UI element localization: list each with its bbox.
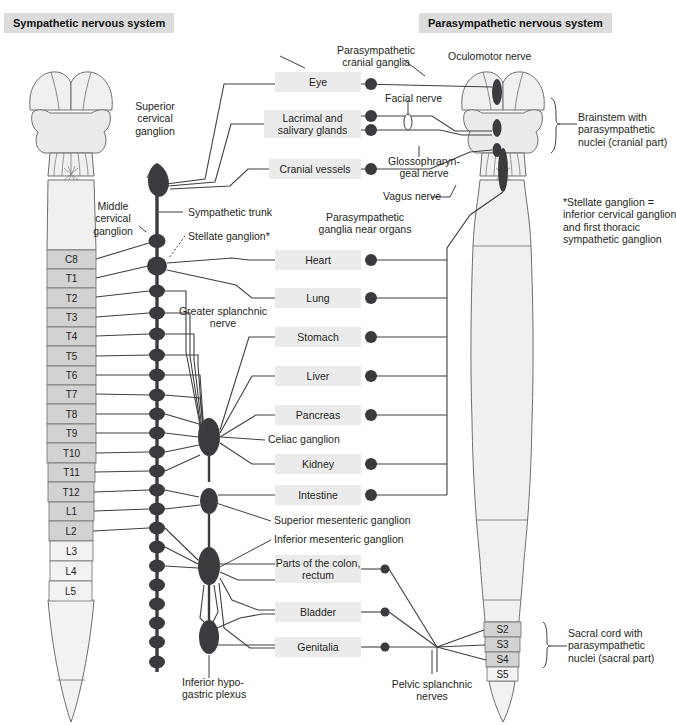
label-celiac-ganglion: Celiac ganglion — [268, 433, 340, 445]
inferior-hypogastric-plexus-shape — [199, 620, 219, 654]
label-sympathetic-trunk: Sympathetic trunk — [188, 206, 272, 218]
organ-box-genitalia: Genitalia — [275, 637, 361, 657]
cord-segment-T1: T1 — [47, 269, 96, 288]
sacral-segment-S4: S4 — [486, 652, 519, 667]
organ-box-eye: Eye — [275, 72, 361, 92]
cord-segment-L5: L5 — [49, 581, 92, 601]
organ-box-lacrimal: Lacrimal and salivary glands — [264, 110, 361, 138]
organ-box-intestine: Intestine — [275, 485, 361, 505]
label-pelvic-splanchnic-nerves: Pelvic splanchnic nerves — [376, 678, 488, 703]
cord-segment-T12: T12 — [48, 482, 94, 502]
cord-segment-T7: T7 — [47, 385, 96, 404]
organ-box-cranial-vessels: Cranial vessels — [269, 159, 361, 179]
label-vagus-nerve: Vagus nerve — [383, 190, 441, 202]
label-parasympathetic-cranial-ganglia: Parasympathetic cranial ganglia — [326, 44, 426, 69]
stellate-ganglion-footnote: *Stellate ganglion = inferior cervical g… — [563, 196, 676, 246]
cord-segment-T10: T10 — [47, 443, 96, 463]
organ-box-kidney: Kidney — [275, 454, 361, 474]
cord-segment-L1: L1 — [49, 502, 94, 521]
cord-segment-T6: T6 — [47, 366, 96, 385]
label-middle-cervical-ganglion: Middle cervical ganglion — [85, 200, 141, 237]
organ-box-stomach: Stomach — [275, 327, 361, 347]
label-sacral-cord-parasympathetic-nuclei: Sacral cord with parasympathetic nuclei … — [568, 627, 654, 664]
pelvic-splanchnic-nerve-paths — [361, 569, 486, 672]
cord-segment-T8: T8 — [47, 404, 96, 424]
cord-segment-L2: L2 — [49, 521, 93, 541]
label-facial-nerve: Facial nerve — [385, 92, 442, 104]
label-inferior-hypogastric-plexus: Inferior hypo- gastric plexus — [182, 676, 246, 701]
sacral-segment-S3: S3 — [485, 637, 520, 652]
cord-segment-T4: T4 — [47, 327, 96, 346]
sacral-segment-S2: S2 — [484, 622, 521, 637]
organ-box-colon-rectum: Parts of the colon, rectum — [275, 555, 361, 583]
cord-segment-T2: T2 — [47, 288, 96, 308]
label-glossopharyngeal-nerve: Glossophraryn- geal nerve — [380, 155, 468, 180]
label-superior-mesenteric-ganglion: Superior mesenteric ganglion — [274, 514, 411, 526]
annotation-brackets — [543, 98, 577, 668]
sympathetic-thoracic-fibers — [167, 258, 275, 298]
cord-segment-T11: T11 — [48, 463, 95, 482]
sacral-segment-S5: S5 — [487, 667, 518, 681]
cord-segment-C8: C8 — [47, 250, 96, 269]
inferior-mesenteric-ganglion-shape — [198, 547, 220, 585]
label-superior-cervical-ganglion: Superior cervical ganglion — [122, 100, 188, 137]
label-parasympathetic-ganglia-near-organs: Parasympathetic ganglia near organs — [306, 211, 424, 236]
cord-segment-L4: L4 — [50, 561, 92, 581]
organ-box-pancreas: Pancreas — [275, 405, 361, 425]
label-brainstem-parasympathetic-nuclei: Brainstem with parasympathetic nuclei (c… — [578, 111, 667, 148]
organ-box-lung: Lung — [275, 288, 361, 308]
superior-mesenteric-ganglion-shape — [200, 488, 218, 514]
cord-segment-L3: L3 — [50, 541, 93, 561]
label-greater-splanchnic-nerve: Greater splanchnic nerve — [168, 305, 278, 330]
sympathetic-trunk-chain — [147, 163, 169, 672]
organ-box-bladder: Bladder — [275, 602, 361, 622]
cord-segment-T5: T5 — [47, 346, 96, 366]
white-rami-communicantes — [93, 243, 149, 531]
label-oculomotor-nerve: Oculomotor nerve — [448, 50, 531, 62]
label-stellate-ganglion: Stellate ganglion* — [188, 230, 270, 242]
cord-segment-T3: T3 — [47, 308, 96, 327]
organ-box-heart: Heart — [275, 250, 361, 270]
label-inferior-mesenteric-ganglion: Inferior mesenteric ganglion — [274, 533, 404, 545]
pelvic-sympathetic-fibers — [165, 528, 275, 648]
organ-box-liver: Liver — [275, 366, 361, 386]
cord-segment-T9: T9 — [47, 424, 96, 443]
